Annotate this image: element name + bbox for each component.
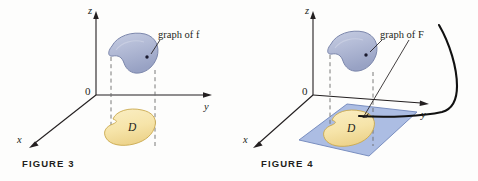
surface-shape bbox=[328, 31, 377, 71]
x-axis-line bbox=[35, 95, 96, 143]
annotation-label-graph-of-F: graph of F bbox=[380, 29, 424, 40]
figure-4-graphic: z y x 0 D bbox=[239, 0, 478, 181]
x-axis-label: x bbox=[16, 134, 22, 145]
annotation-anchor-dot bbox=[145, 55, 148, 58]
figure-3-caption: FIGURE 3 bbox=[22, 158, 75, 169]
z-axis-arrowhead bbox=[93, 11, 99, 19]
domain-region-d-fig3: D bbox=[105, 109, 156, 145]
z-axis-label: z bbox=[304, 5, 309, 16]
figure-4-caption: FIGURE 4 bbox=[261, 158, 314, 169]
y-axis-arrowhead bbox=[203, 92, 212, 98]
y-axis-arrowhead bbox=[420, 101, 429, 107]
surface-anchor-dot bbox=[364, 53, 367, 56]
surface-graph-f-fig3 bbox=[109, 33, 158, 73]
x-axis-arrowhead bbox=[253, 141, 263, 148]
origin-label: 0 bbox=[302, 85, 308, 97]
y-axis-line bbox=[313, 95, 421, 103]
annotation-label-graph-of-f: graph of f bbox=[158, 29, 200, 40]
origin-label: 0 bbox=[85, 85, 91, 97]
domain-region-label: D bbox=[346, 122, 356, 134]
surface-graph-F-fig4 bbox=[328, 31, 377, 71]
x-axis-label: x bbox=[242, 134, 248, 145]
figure-3-panel: z y x 0 D graph of f bbox=[0, 0, 239, 181]
figure-4-panel: z y x 0 D bbox=[239, 0, 478, 181]
y-axis-label: y bbox=[203, 101, 209, 112]
surface-shape bbox=[109, 33, 158, 73]
figure-3-graphic: z y x 0 D graph of f bbox=[0, 0, 239, 181]
z-axis-arrowhead bbox=[310, 11, 316, 19]
figure-page: z y x 0 D graph of f bbox=[0, 0, 478, 181]
domain-region-label: D bbox=[127, 121, 137, 133]
x-axis-arrowhead bbox=[29, 141, 39, 148]
z-axis-label: z bbox=[87, 5, 92, 16]
